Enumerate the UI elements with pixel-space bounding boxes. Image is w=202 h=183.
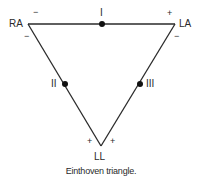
polarity-lead-ii-ll: + bbox=[87, 137, 92, 146]
lead-iii-dot bbox=[137, 81, 143, 87]
polarity-lead-i-ra: − bbox=[33, 8, 38, 17]
figure-caption: Einthoven triangle. bbox=[0, 166, 202, 176]
lead-label-iii: III bbox=[146, 79, 154, 89]
vertex-label-ll: LL bbox=[94, 152, 105, 162]
polarity-lead-iii-ll: + bbox=[110, 137, 115, 146]
vertex-label-ra: RA bbox=[9, 19, 23, 29]
lead-ii-dot bbox=[62, 81, 68, 87]
polarity-lead-i-la: + bbox=[167, 9, 172, 18]
polarity-lead-ii-ra: − bbox=[24, 32, 29, 41]
vertex-label-la: LA bbox=[179, 19, 191, 29]
lead-label-ii: II bbox=[51, 79, 57, 89]
lead-label-i: I bbox=[100, 8, 103, 18]
polarity-lead-iii-la: − bbox=[174, 32, 179, 41]
lead-i-dot bbox=[99, 21, 105, 27]
